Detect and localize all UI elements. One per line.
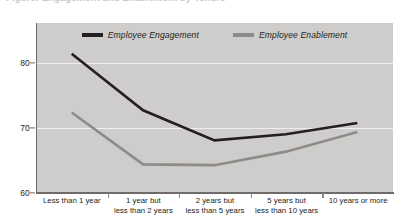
clipped-caption-text: Figure: Engagement and Enablement by Ten… (6, 0, 226, 3)
x-category-label-line1: 10 years or more (322, 196, 394, 206)
x-category-3: 5 years but less than 10 years (251, 193, 323, 222)
x-category-label-line2: less than 5 years (179, 206, 251, 216)
series-line-employee-enablement (72, 113, 358, 166)
x-tick-divider (179, 193, 180, 198)
x-axis: Less than 1 year 1 year but less than 2 … (36, 193, 394, 222)
y-axis: 80 70 60 (0, 11, 30, 222)
x-category-label-line1: Less than 1 year (36, 196, 108, 206)
y-tick-label-60: 60 (4, 188, 30, 198)
clipped-caption-strip: Figure: Engagement and Enablement by Ten… (0, 0, 401, 11)
x-category-1: 1 year but less than 2 years (108, 193, 180, 222)
x-category-label-line2: less than 10 years (251, 206, 323, 216)
line-chart-figure: 80 70 60 Employee Engagement Employee En… (0, 11, 401, 222)
x-category-label-line2: less than 2 years (108, 206, 180, 216)
y-tick-label-80: 80 (4, 58, 30, 68)
x-tick-divider (322, 193, 323, 198)
x-category-label-line1: 1 year but (108, 196, 180, 206)
x-category-label-line1: 2 years but (179, 196, 251, 206)
y-tick-mark-60 (30, 192, 35, 193)
series-line-employee-engagement (72, 54, 358, 141)
x-category-2: 2 years but less than 5 years (179, 193, 251, 222)
y-tick-mark-80 (30, 62, 35, 63)
x-category-0: Less than 1 year (36, 193, 108, 222)
y-tick-label-70: 70 (4, 123, 30, 133)
y-tick-mark-70 (30, 127, 35, 128)
x-category-label-line1: 5 years but (251, 196, 323, 206)
x-tick-divider (108, 193, 109, 198)
x-category-4: 10 years or more (322, 193, 394, 222)
x-tick-divider (251, 193, 252, 198)
series-plot (36, 23, 393, 193)
